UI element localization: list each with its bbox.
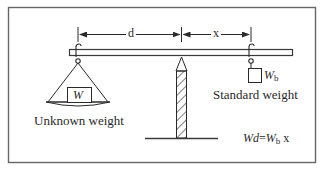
standard-weight xyxy=(249,63,262,83)
lever-balance-diagram: d x W Wb Unknown weight Standard weight … xyxy=(0,0,324,172)
standard-weight-box xyxy=(249,69,262,83)
fulcrum-pillar xyxy=(177,71,187,138)
diagram-canvas xyxy=(0,0,324,172)
formula-rhs-main: W xyxy=(266,131,276,145)
standard-weight-symbol-main: W xyxy=(264,68,274,82)
unknown-weight-symbol: W xyxy=(73,89,83,101)
dimension-d-label: d xyxy=(126,27,136,39)
standard-weight-symbol: Wb xyxy=(264,69,279,83)
fulcrum xyxy=(176,57,187,138)
balance-formula: Wd=Wb x xyxy=(243,132,289,146)
standard-weight-symbol-sub: b xyxy=(274,73,279,83)
lever-beam xyxy=(70,50,293,56)
formula-equals: = xyxy=(259,131,266,145)
unknown-weight-caption: Unknown weight xyxy=(34,114,124,127)
dimension-x-label: x xyxy=(211,27,221,39)
standard-weight-caption: Standard weight xyxy=(213,88,298,101)
formula-rhs-tail: x xyxy=(280,131,289,145)
formula-lhs: Wd xyxy=(243,131,259,145)
